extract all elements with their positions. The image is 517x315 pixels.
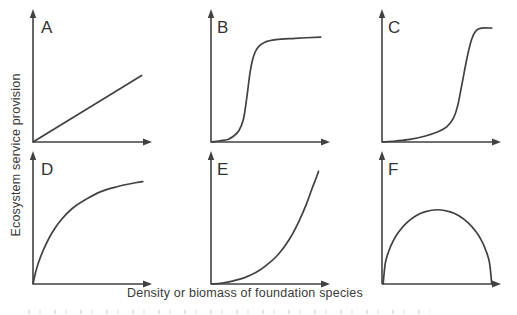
y-axis-label: Ecosystem service provision bbox=[9, 73, 23, 236]
curve-exponential bbox=[211, 171, 319, 284]
y-axis-arrow-icon bbox=[379, 9, 385, 18]
figure-canvas: Ecosystem service provision A B bbox=[0, 0, 517, 315]
curve-sigmoid-late bbox=[382, 28, 492, 142]
panel-c-plot: C bbox=[374, 6, 504, 148]
panel-letter: B bbox=[217, 18, 228, 37]
panel-d: D bbox=[25, 148, 155, 290]
curve-hump bbox=[383, 210, 492, 284]
panel-c: C bbox=[374, 6, 504, 148]
curve-sigmoid-early bbox=[211, 37, 321, 142]
panel-e: E bbox=[203, 148, 333, 290]
x-axis-label: Density or biomass of foundation species bbox=[127, 286, 363, 300]
panel-b: B bbox=[203, 6, 333, 148]
panel-e-plot: E bbox=[203, 148, 333, 290]
panel-d-plot: D bbox=[25, 148, 155, 290]
cropped-caption-remnant bbox=[28, 310, 430, 314]
y-axis-arrow-icon bbox=[379, 151, 385, 160]
curve-saturating bbox=[33, 182, 143, 284]
panel-letter: F bbox=[388, 160, 398, 179]
x-axis-arrow-icon bbox=[143, 139, 152, 146]
x-axis-arrow-icon bbox=[321, 139, 330, 146]
y-axis-arrow-icon bbox=[30, 151, 36, 160]
curve-linear bbox=[33, 75, 142, 142]
panel-a-plot: A bbox=[25, 6, 155, 148]
y-axis-arrow-icon bbox=[208, 151, 214, 160]
panel-f: F bbox=[374, 148, 504, 290]
panel-f-plot: F bbox=[374, 148, 504, 290]
panel-letter: A bbox=[41, 18, 53, 37]
panel-a: A bbox=[25, 6, 155, 148]
y-axis-arrow-icon bbox=[208, 9, 214, 18]
panel-letter: D bbox=[41, 160, 53, 179]
y-axis-arrow-icon bbox=[30, 9, 36, 18]
x-axis-arrow-icon bbox=[492, 281, 501, 288]
panel-b-plot: B bbox=[203, 6, 333, 148]
x-axis-arrow-icon bbox=[492, 139, 501, 146]
panel-letter: C bbox=[388, 18, 400, 37]
panel-letter: E bbox=[217, 160, 228, 179]
